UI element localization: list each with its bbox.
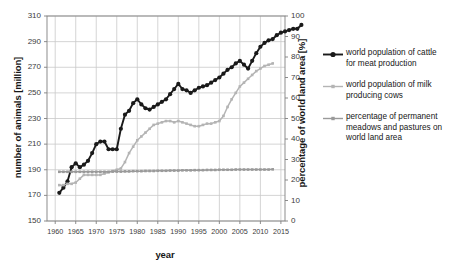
- y-axis-right-tick-100: 100: [291, 11, 315, 20]
- chart-legend: world population of cattle for meat prod…: [322, 48, 458, 155]
- data-series-layer: [57, 23, 303, 195]
- legend-square-marker-icon: [322, 115, 344, 122]
- y-axis-left-tick-190: 190: [17, 165, 41, 174]
- y-axis-left-tick-250: 250: [17, 88, 41, 97]
- legend-item-2[interactable]: percentage of permanent meadows and past…: [322, 112, 458, 144]
- legend-item-label: percentage of permanent meadows and past…: [346, 112, 458, 144]
- legend-item-label: world population of cattle for meat prod…: [346, 48, 458, 69]
- legend-item-1[interactable]: world population of milk producing cows: [322, 80, 458, 101]
- y-axis-left-tick-170: 170: [17, 190, 41, 199]
- y-axis-right-tick-90: 90: [291, 32, 315, 41]
- x-axis-tick-2015: 2015: [267, 227, 295, 236]
- y-axis-left-tick-290: 290: [17, 37, 41, 46]
- y-axis-left-tick-270: 270: [17, 62, 41, 71]
- y-axis-left-tick-150: 150: [17, 216, 41, 225]
- y-axis-right-tick-10: 10: [291, 196, 315, 205]
- y-axis-right-tick-40: 40: [291, 134, 315, 143]
- y-axis-right-tick-80: 80: [291, 52, 315, 61]
- y-axis-right-tick-30: 30: [291, 155, 315, 164]
- y-axis-left-tick-230: 230: [17, 114, 41, 123]
- y-axis-right-tick-70: 70: [291, 73, 315, 82]
- legend-square-marker-icon: [322, 83, 344, 90]
- y-axis-right-tick-60: 60: [291, 93, 315, 102]
- y-axis-right-tick-0: 0: [291, 216, 315, 225]
- y-axis-right-tick-50: 50: [291, 114, 315, 123]
- series-1: [58, 62, 274, 186]
- chart-figure: number of animals [million] percentage o…: [0, 0, 458, 267]
- gridlines: [47, 16, 285, 221]
- y-axis-left-tick-210: 210: [17, 139, 41, 148]
- legend-item-0[interactable]: world population of cattle for meat prod…: [322, 48, 458, 69]
- legend-item-label: world population of milk producing cows: [346, 80, 458, 101]
- y-axis-right-tick-20: 20: [291, 175, 315, 184]
- y-axis-left-tick-310: 310: [17, 11, 41, 20]
- legend-circle-marker-icon: [322, 51, 344, 58]
- series-2: [58, 168, 274, 173]
